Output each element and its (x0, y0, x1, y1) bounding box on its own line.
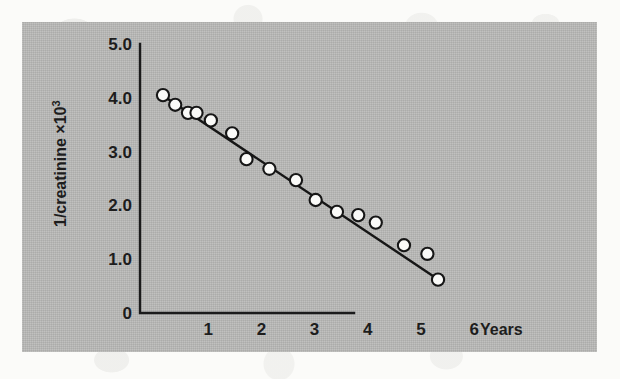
y-tick-label: 0 (123, 304, 132, 323)
y-axis-title-exponent: 3 (50, 100, 62, 106)
x-tick-label: 4 (363, 320, 373, 339)
scatter-plot: 01.02.03.04.05.0 123456 1/creatinine ×10… (22, 22, 597, 352)
data-point (205, 114, 217, 126)
data-point (240, 153, 252, 165)
x-tick-label: 3 (310, 320, 319, 339)
x-tick-label: 5 (416, 320, 425, 339)
y-tick-label: 3.0 (108, 143, 132, 162)
data-point (290, 174, 302, 186)
data-point (370, 217, 382, 229)
x-tick-label: 6 (469, 320, 478, 339)
data-point (157, 89, 169, 101)
data-point (398, 239, 410, 251)
y-tick-label: 2.0 (108, 196, 132, 215)
data-point (263, 163, 275, 175)
data-point (421, 248, 433, 260)
y-axis-tick-labels: 01.02.03.04.05.0 (108, 35, 132, 323)
x-tick-label: 2 (257, 320, 266, 339)
y-tick-label: 4.0 (108, 89, 132, 108)
y-axis-title-text: 1/creatinine ×10 (52, 106, 69, 227)
figure-panel: 01.02.03.04.05.0 123456 1/creatinine ×10… (22, 22, 597, 352)
y-tick-label: 5.0 (108, 35, 132, 54)
data-point (432, 274, 444, 286)
y-axis-title: 1/creatinine ×103 (50, 100, 69, 227)
x-tick-label: 1 (203, 320, 212, 339)
data-point (169, 99, 181, 111)
axis-lines (140, 44, 354, 313)
x-axis-title: Years (480, 321, 523, 338)
figure-page: 01.02.03.04.05.0 123456 1/creatinine ×10… (0, 0, 620, 379)
data-point (226, 127, 238, 139)
data-point (352, 209, 364, 221)
x-axis-tick-labels: 123456 (203, 320, 478, 339)
y-tick-label: 1.0 (108, 250, 132, 269)
data-point (190, 107, 202, 119)
data-point (310, 194, 322, 206)
data-point (331, 206, 343, 218)
